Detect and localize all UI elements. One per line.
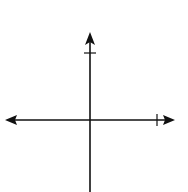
coordinate-plane — [0, 0, 188, 192]
